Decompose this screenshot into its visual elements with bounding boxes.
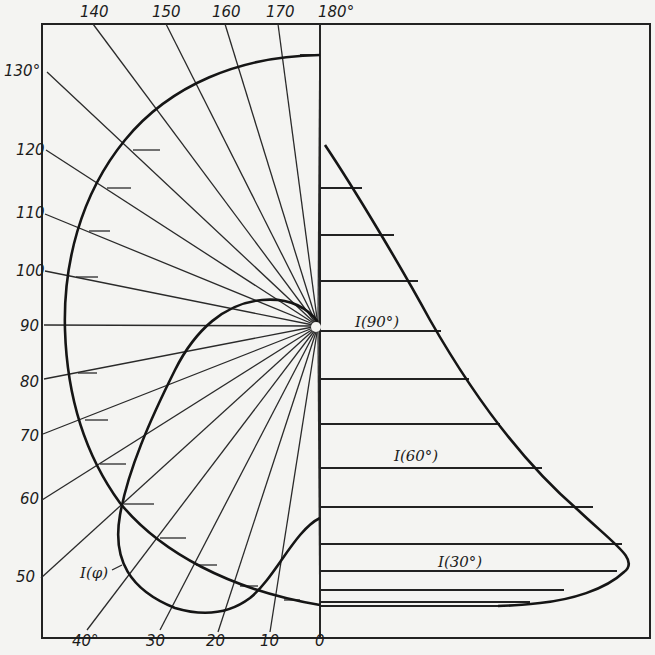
angle-label: 50 <box>16 568 35 586</box>
angle-label: 10 <box>260 632 279 650</box>
angle-label: 160 <box>212 3 241 21</box>
angle-label: 170 <box>266 3 295 21</box>
angle-label: 0 <box>315 632 325 650</box>
angle-label: 70 <box>20 427 39 445</box>
angle-label: 150 <box>152 3 181 21</box>
angle-label: 100 <box>16 262 45 280</box>
curve-label-i-phi: I(φ) <box>79 564 108 582</box>
angle-label: 90 <box>20 317 39 335</box>
angle-label: 60 <box>20 490 39 508</box>
origin-marker <box>311 322 321 332</box>
angle-label: 40° <box>72 632 99 650</box>
curve-label-i-90: I(90°) <box>354 313 399 331</box>
angle-label: 180° <box>318 3 354 21</box>
angle-label: 80 <box>20 373 39 391</box>
angle-label: 20 <box>206 632 225 650</box>
angle-label: 140 <box>80 3 109 21</box>
paper-background <box>0 0 655 655</box>
angle-label: 110 <box>16 204 45 222</box>
angle-label: 30 <box>146 632 165 650</box>
angle-label: 130° <box>4 62 40 80</box>
curve-label-i-60: I(60°) <box>393 447 438 465</box>
curve-label-i-30: I(30°) <box>437 553 482 571</box>
angle-label: 120 <box>16 141 45 159</box>
intensity-diagram: 140150160170180° 130°1201101009080706050… <box>0 0 655 655</box>
